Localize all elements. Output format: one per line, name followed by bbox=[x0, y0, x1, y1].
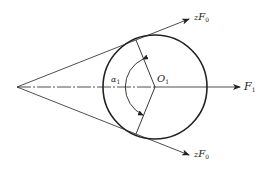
lower-tension-line bbox=[17, 87, 189, 155]
angle-subscript: 1 bbox=[116, 78, 120, 85]
top-force-subscript: 0 bbox=[205, 16, 209, 23]
radial-force-label: F1 bbox=[244, 81, 255, 93]
radial-force-symbol: F bbox=[244, 80, 252, 93]
top-force-label: zF0 bbox=[194, 12, 209, 23]
center-subscript: 1 bbox=[165, 78, 169, 85]
bottom-force-subscript: 0 bbox=[205, 153, 209, 160]
belt-force-diagram bbox=[0, 0, 271, 174]
wrap-angle-label: α1 bbox=[111, 76, 120, 85]
lower-radius bbox=[136, 87, 155, 134]
radial-force-subscript: 1 bbox=[252, 86, 256, 93]
center-label: O1 bbox=[157, 74, 169, 85]
bottom-force-label: zF0 bbox=[194, 149, 209, 160]
upper-radius bbox=[136, 40, 155, 87]
center-symbol: O bbox=[157, 73, 165, 84]
